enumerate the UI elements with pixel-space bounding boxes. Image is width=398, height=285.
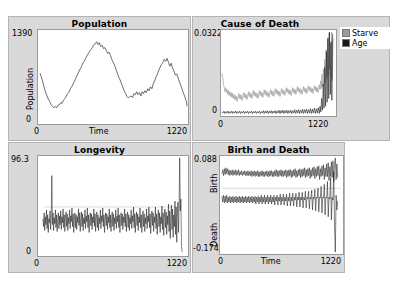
cause-of-death-plot-area[interactable] bbox=[220, 29, 337, 117]
panel-title-cause-of-death: Cause of Death bbox=[193, 19, 327, 29]
legend-item-starve[interactable]: Starve bbox=[342, 28, 390, 38]
cause-of-death-x-min-tick: 0 bbox=[218, 120, 223, 129]
cause-of-death-y-max-tick: 0.0322 bbox=[194, 29, 222, 38]
birth-death-x-min-tick: 0 bbox=[218, 257, 223, 266]
birth-axis-label: Birth bbox=[210, 174, 219, 193]
population-trace bbox=[38, 30, 188, 124]
birth-and-death-plot-area[interactable] bbox=[219, 155, 344, 255]
panel-cause-of-death: Cause of Death 0.0322 0 0 1220 Starve Ag… bbox=[192, 16, 390, 141]
longevity-trace bbox=[38, 156, 188, 256]
cause-of-death-y-min-tick: 0 bbox=[212, 106, 217, 115]
cause-of-death-traces bbox=[221, 30, 336, 116]
population-y-axis-label: Population bbox=[26, 68, 35, 110]
birth-death-y-max-tick: 0.088 bbox=[194, 155, 217, 164]
population-y-min-tick: 0 bbox=[26, 115, 31, 124]
panel-birth-and-death: Birth and Death 0.088 -0.174 0 1220 Time… bbox=[192, 142, 345, 273]
birth-death-x-max-tick: 1220 bbox=[321, 257, 341, 266]
longevity-x-max-tick: 1220 bbox=[167, 259, 187, 268]
longevity-y-max-tick: 96.3 bbox=[11, 155, 29, 164]
birth-death-x-axis-label: Time bbox=[261, 257, 281, 266]
starve-swatch bbox=[342, 29, 350, 37]
population-x-max-tick: 1220 bbox=[167, 127, 187, 136]
population-y-max-tick: 1390 bbox=[12, 29, 32, 38]
population-x-min-tick: 0 bbox=[34, 127, 39, 136]
legend-item-age[interactable]: Age bbox=[342, 38, 390, 48]
legend-label-starve: Starve bbox=[352, 29, 378, 38]
cause-of-death-x-max-tick: 1220 bbox=[308, 120, 328, 129]
longevity-plot-area[interactable] bbox=[37, 155, 189, 257]
panel-longevity: Longevity 96.3 0 0 1220 bbox=[8, 142, 191, 273]
population-plot-area[interactable] bbox=[37, 29, 189, 125]
death-axis-label: Death bbox=[210, 223, 219, 247]
population-x-axis-label: Time bbox=[89, 127, 109, 136]
cause-of-death-legend: Starve Age bbox=[340, 27, 392, 49]
age-swatch bbox=[342, 39, 350, 47]
longevity-y-min-tick: 0 bbox=[26, 247, 31, 256]
legend-label-age: Age bbox=[352, 39, 367, 48]
panel-population: Population 1390 0 0 1220 Time Population bbox=[8, 16, 191, 141]
panel-title-birth-and-death: Birth and Death bbox=[193, 145, 344, 155]
panel-title-longevity: Longevity bbox=[9, 145, 190, 155]
longevity-x-min-tick: 0 bbox=[34, 259, 39, 268]
panel-title-population: Population bbox=[9, 19, 190, 29]
simulation-plot-window: Population 1390 0 0 1220 Time Population… bbox=[0, 0, 398, 285]
birth-and-death-traces bbox=[220, 156, 343, 254]
